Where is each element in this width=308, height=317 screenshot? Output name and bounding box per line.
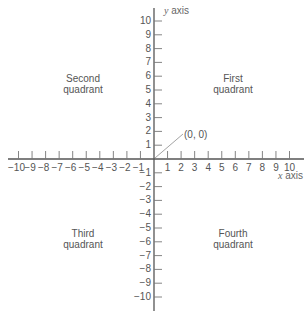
third-quadrant-label: Third quadrant <box>43 228 123 250</box>
y-tick-label: −9 <box>140 277 151 288</box>
y-tick-label: 2 <box>145 125 151 136</box>
y-tick-label: −1 <box>140 167 151 178</box>
y-tick-label: −10 <box>134 291 151 302</box>
x-tick-label: 7 <box>246 162 252 173</box>
y-tick-label: 9 <box>145 29 151 40</box>
y-tick-label: 3 <box>145 112 151 123</box>
y-tick-label: 4 <box>145 98 151 109</box>
x-tick-label: −3 <box>106 162 117 173</box>
y-axis-title: y axis <box>164 5 189 16</box>
y-tick-label: 5 <box>145 84 151 95</box>
y-tick-label: −4 <box>140 208 151 219</box>
y-tick-label: −7 <box>140 250 151 261</box>
coordinate-plane <box>0 0 308 317</box>
x-tick-label: −5 <box>79 162 90 173</box>
x-tick-label: −10 <box>8 162 25 173</box>
x-tick-label: 1 <box>165 162 171 173</box>
origin-pointer-line <box>155 134 183 158</box>
y-tick-label: −5 <box>140 222 151 233</box>
y-tick-label: 1 <box>145 139 151 150</box>
y-tick-label: −3 <box>140 194 151 205</box>
y-tick-label: −8 <box>140 263 151 274</box>
x-tick-label: −8 <box>38 162 49 173</box>
x-tick-label: −2 <box>119 162 130 173</box>
y-tick-label: −6 <box>140 236 151 247</box>
y-tick-label: −2 <box>140 181 151 192</box>
x-tick-label: −9 <box>24 162 35 173</box>
x-tick-label: 5 <box>219 162 225 173</box>
first-quadrant-label: First quadrant <box>193 73 273 95</box>
x-tick-label: −7 <box>51 162 62 173</box>
fourth-quadrant-label: Fourth quadrant <box>193 228 273 250</box>
x-tick-label: 3 <box>192 162 198 173</box>
x-tick-label: −6 <box>65 162 76 173</box>
x-tick-label: 2 <box>178 162 184 173</box>
x-tick-label: 4 <box>205 162 211 173</box>
x-tick-label: −4 <box>92 162 103 173</box>
x-tick-label: 10 <box>284 162 295 173</box>
y-tick-label: 6 <box>145 70 151 81</box>
second-quadrant-label: Second quadrant <box>43 73 123 95</box>
y-tick-label: 7 <box>145 56 151 67</box>
y-tick-label: 10 <box>140 15 151 26</box>
origin-label: (0, 0) <box>184 129 207 140</box>
x-tick-label: 6 <box>233 162 239 173</box>
y-tick-label: 8 <box>145 43 151 54</box>
x-tick-label: 8 <box>260 162 266 173</box>
x-tick-label: 9 <box>273 162 279 173</box>
